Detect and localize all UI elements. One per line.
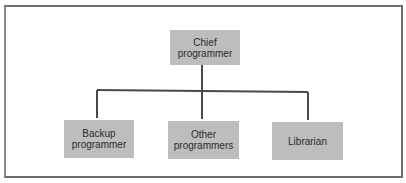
node-label-line1: Other bbox=[174, 129, 233, 140]
node-label-line1: Backup bbox=[72, 128, 126, 139]
node-label-line2: programmers bbox=[174, 140, 233, 151]
node-label-line2: programmer bbox=[72, 139, 126, 150]
node-label-line1: Chief bbox=[178, 37, 232, 48]
node-backup-programmer: Backup programmer bbox=[64, 120, 134, 158]
node-chief-programmer: Chief programmer bbox=[170, 30, 240, 65]
node-label-line2: programmer bbox=[178, 48, 232, 59]
node-other-programmers: Other programmers bbox=[168, 121, 239, 159]
node-label-line1: Librarian bbox=[288, 136, 327, 147]
node-librarian: Librarian bbox=[272, 122, 343, 160]
